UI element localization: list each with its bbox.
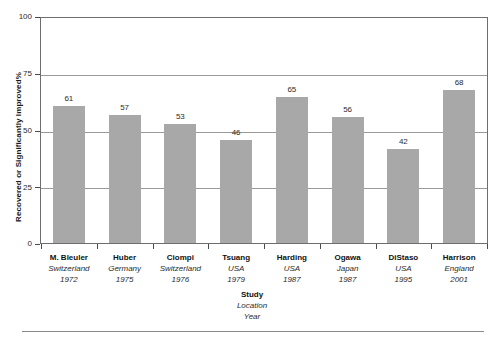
x-axis-title: Study Location Year [0,289,504,322]
bar-value-label: 61 [64,94,73,103]
study-year: 1976 [153,274,209,285]
study-name: M. Bleuler [41,252,97,263]
study-location: USA [208,263,264,274]
study-name: DiStaso [376,252,432,263]
y-tick-label-0: 0 [12,239,32,248]
y-axis-title: Recovered or Significantly Improved% [14,2,23,222]
y-tick-mark-75 [35,74,40,75]
study-name: Huber [97,252,153,263]
bars-layer: 61 57 53 46 65 56 42 68 [41,18,487,243]
study-location: USA [264,263,320,274]
bar-slot-2: 53 [153,18,209,243]
bar-slot-6: 42 [376,18,432,243]
x-tick-mark-8 [487,244,488,249]
x-tick-mark-5 [320,244,321,249]
study-year: 2001 [431,274,487,285]
study-location: USA [376,263,432,274]
study-name: Ogawa [320,252,376,263]
bar[interactable] [109,115,141,243]
bar-value-label: 56 [343,105,352,114]
bar[interactable] [220,140,252,244]
x-category-label-0: M. Bleuler Switzerland 1972 [41,252,97,285]
bar-slot-7: 68 [431,18,487,243]
bar-slot-0: 61 [41,18,97,243]
study-name: Tsuang [208,252,264,263]
x-axis-title-location: Location [0,300,504,311]
study-location: Japan [320,263,376,274]
x-category-label-7: Harrison England 2001 [431,252,487,285]
x-tick-mark-3 [208,244,209,249]
bar-value-label: 65 [287,85,296,94]
bar-value-label: 42 [399,137,408,146]
study-year: 1972 [41,274,97,285]
bar-slot-4: 65 [264,18,320,243]
study-year: 1979 [208,274,264,285]
bar[interactable] [276,97,308,243]
x-tick-mark-1 [97,244,98,249]
bar-slot-1: 57 [97,18,153,243]
x-category-label-4: Harding USA 1987 [264,252,320,285]
study-year: 1975 [97,274,153,285]
study-year: 1987 [320,274,376,285]
bar[interactable] [164,124,196,243]
y-tick-mark-50 [35,131,40,132]
x-axis-title-year: Year [0,311,504,322]
bar-value-label: 46 [232,128,241,137]
bar[interactable] [332,117,364,243]
x-category-label-6: DiStaso USA 1995 [376,252,432,285]
study-location: Switzerland [41,263,97,274]
x-category-label-2: Ciompi Switzerland 1976 [153,252,209,285]
x-tick-mark-0 [41,244,42,249]
bar-value-label: 68 [455,78,464,87]
study-name: Harding [264,252,320,263]
x-axis-title-study: Study [0,289,504,300]
study-name: Ciompi [153,252,209,263]
x-tick-mark-6 [376,244,377,249]
bottom-divider [22,331,484,332]
bar-value-label: 53 [176,112,185,121]
study-year: 1995 [376,274,432,285]
y-tick-mark-0 [35,244,40,245]
x-category-label-5: Ogawa Japan 1987 [320,252,376,285]
bar[interactable] [387,149,419,244]
x-tick-mark-2 [153,244,154,249]
study-name: Harrison [431,252,487,263]
bar-slot-5: 56 [320,18,376,243]
bar-value-label: 57 [120,103,129,112]
bar[interactable] [53,106,85,243]
x-category-label-3: Tsuang USA 1979 [208,252,264,285]
x-tick-mark-7 [431,244,432,249]
study-year: 1987 [264,274,320,285]
study-location: Germany [97,263,153,274]
bar[interactable] [443,90,475,243]
study-location: Switzerland [153,263,209,274]
x-tick-mark-4 [264,244,265,249]
x-category-label-1: Huber Germany 1975 [97,252,153,285]
bar-chart-figure: 100 75 50 25 0 Recovered or Significantl… [0,0,504,347]
y-tick-mark-25 [35,187,40,188]
study-location: England [431,263,487,274]
y-tick-mark-100 [35,17,40,18]
bar-slot-3: 46 [208,18,264,243]
